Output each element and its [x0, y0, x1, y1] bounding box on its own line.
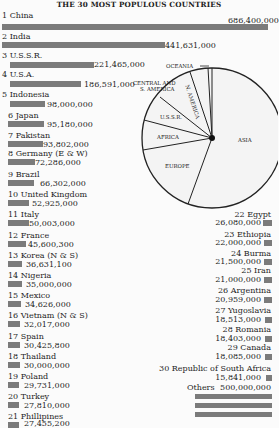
country-value: 36,631,100	[26, 260, 72, 269]
country-bar	[8, 261, 22, 267]
country-label: 20 Turkey	[8, 392, 49, 401]
pie-label-central-line2: S. AMERICA	[133, 86, 176, 92]
country-bar	[263, 220, 272, 226]
country-bar	[8, 422, 19, 428]
country-label: 27 Yugoslavia	[215, 306, 271, 315]
country-value: 34,626,000	[25, 300, 71, 309]
others-value: 500,000,000	[220, 383, 271, 392]
country-value: 29,731,000	[24, 381, 70, 390]
country-value: 35,000,000	[26, 280, 72, 289]
country-bar	[8, 402, 19, 408]
country-bar	[265, 317, 272, 323]
country-value: 21,000,000	[215, 275, 261, 284]
country-value: 18,085,000	[215, 352, 261, 361]
country-value: 18,403,000	[215, 334, 261, 343]
country-label: 16 Vietnam (N & S)	[8, 311, 88, 320]
country-bar	[266, 375, 272, 381]
country-value: 27,810,000	[24, 401, 70, 410]
country-label: 15 Mexico	[8, 291, 50, 300]
country-label: 28 Romania	[223, 325, 271, 334]
pie-label-europe: EUROPE	[165, 163, 190, 169]
country-bar	[8, 241, 26, 247]
country-value: 21,500,000	[215, 257, 261, 266]
country-bar	[264, 277, 272, 283]
pie-label-ussr: U.S.S.R.	[160, 114, 182, 120]
country-value: 27,455,200	[24, 419, 70, 428]
region-pie-chart: OCEANIA CENTRAL AND S. AMERICA N. AMERIC…	[0, 0, 278, 230]
country-bar	[265, 354, 272, 360]
pie-label-oceania: OCEANIA	[166, 63, 193, 69]
country-label: 29 Canada	[228, 343, 271, 352]
country-value: 30,425,800	[24, 341, 70, 350]
pie-label-asia: ASIA	[238, 137, 252, 143]
country-value: 15,841,000	[215, 373, 261, 382]
country-label: 13 Korea (N & S)	[8, 251, 78, 260]
country-bar	[8, 321, 20, 327]
country-bar	[264, 259, 272, 265]
country-value: 20,959,000	[215, 295, 261, 304]
pie-label-africa: AFRICA	[157, 134, 179, 140]
country-label: 12 France	[8, 231, 49, 240]
country-bar	[8, 362, 20, 368]
others-bar	[195, 403, 272, 408]
country-bar	[8, 342, 20, 348]
pie-graphic	[0, 0, 278, 230]
country-bar	[264, 297, 272, 303]
country-value: 30,000,000	[24, 361, 70, 370]
country-label: 30 Republic of South Africa	[159, 364, 271, 373]
country-value: 18,513,000	[215, 315, 261, 324]
country-bar	[264, 240, 272, 246]
others-bar	[195, 412, 272, 417]
country-value: 22,000,000	[215, 238, 261, 247]
country-value: 26,080,000	[215, 218, 261, 227]
country-bar	[8, 382, 19, 388]
country-label: 26 Argentina	[218, 286, 271, 295]
country-value: 32,017,000	[24, 320, 70, 329]
country-label: 19 Poland	[8, 372, 48, 381]
country-label: 25 Iran	[241, 266, 271, 275]
others-bar	[195, 394, 272, 399]
country-value: 45,600,300	[28, 240, 74, 249]
country-bar	[265, 336, 272, 342]
country-label: 14 Nigeria	[8, 271, 51, 280]
others-label: Others	[187, 383, 215, 392]
country-label: 18 Thailand	[8, 352, 56, 361]
country-bar	[8, 281, 22, 287]
pie-label-central-s-america: CENTRAL AND S. AMERICA	[133, 80, 176, 92]
country-label: 17 Spain	[8, 332, 44, 341]
country-bar	[8, 301, 21, 307]
others-row: Others 500,000,000	[187, 383, 271, 392]
